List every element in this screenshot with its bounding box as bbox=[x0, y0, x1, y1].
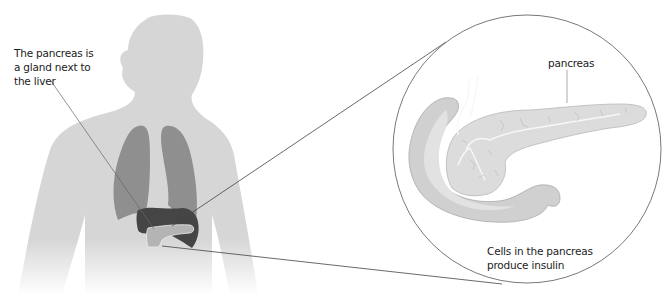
cells-note-line: Cells in the pancreas bbox=[487, 244, 627, 258]
gland-note-line: The pancreas is bbox=[14, 46, 124, 60]
gland-location-note: The pancreas is a gland next to the live… bbox=[14, 46, 124, 88]
cells-note-line: produce insulin bbox=[487, 258, 627, 272]
gland-note-line: a gland next to bbox=[14, 60, 124, 74]
insulin-cells-note: Cells in the pancreas produce insulin bbox=[487, 244, 627, 272]
gland-note-line: the liver bbox=[14, 74, 124, 88]
pancreas-label: pancreas bbox=[548, 56, 594, 70]
